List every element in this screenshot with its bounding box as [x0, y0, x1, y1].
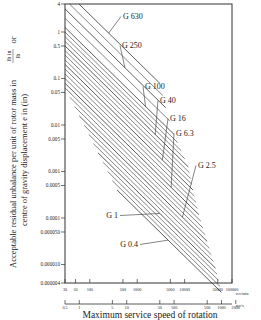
grade-line	[93, 144, 213, 262]
balance-quality-chart: G 630G 250G 100G 40G 16G 6.3G 2.5G 1G 0.…	[0, 0, 261, 320]
y-tick-label: 4	[57, 1, 60, 7]
grade-label: G 100	[145, 82, 165, 91]
x-tick-label: 5000	[166, 287, 174, 292]
x-axis-title: Maximum service speed of rotation	[82, 310, 217, 320]
y-axis-frac-num: lb in	[6, 51, 12, 62]
grade-line	[65, 74, 196, 202]
x-unit-primary: rev/min	[236, 291, 248, 296]
y-tick-label: 0.001	[48, 168, 60, 174]
grade-line	[103, 162, 217, 274]
grade-line	[65, 51, 189, 173]
x-tick-label: 50	[73, 287, 77, 292]
x-tick-label: 30	[63, 287, 67, 292]
grade-label: G 6.3	[176, 129, 194, 138]
grade-label: G 250	[122, 41, 142, 50]
x-unit-secondary: rev/s	[236, 303, 244, 308]
grade-line	[65, 18, 170, 121]
y-tick-label: 0.5	[54, 43, 61, 49]
y-tick-label: 0.0001	[46, 215, 61, 221]
grade-label: G 1	[106, 211, 118, 220]
y-axis-frac-den: lb	[15, 54, 21, 59]
x2-tick-label: 1000	[217, 305, 225, 310]
y-tick-label: 0.05	[51, 89, 60, 95]
x-axis-primary-ticks: 3050100500100050001000050000100000	[63, 279, 238, 292]
y-axis-ticks: 410.50.10.050.010.0050.0010.00050.00010.…	[41, 1, 65, 286]
grade-line	[65, 79, 197, 209]
x2-tick-label: 0.5	[62, 305, 67, 310]
y-tick-label: 1	[57, 29, 60, 35]
x-tick-label: 50000	[212, 287, 222, 292]
x-tick-label: 1000	[133, 287, 141, 292]
y-tick-label: 0.01	[51, 122, 60, 128]
grade-line	[75, 107, 206, 235]
y-tick-label: 0.000010	[41, 261, 61, 267]
x-tick-label: 500	[120, 287, 126, 292]
x-axis-secondary-ticks: 0.515105010050010002000	[62, 300, 240, 310]
grade-lines	[65, 4, 221, 292]
y-tick-label: 0.000004	[41, 280, 61, 286]
y-tick-label: 0.000050	[41, 229, 61, 235]
y-tick-label: 0.0005	[46, 182, 61, 188]
grade-label: G 2.5	[198, 161, 216, 170]
x2-tick-label: 1	[78, 305, 80, 310]
grade-line	[65, 64, 193, 190]
grade-line	[65, 69, 194, 196]
x-tick-label: 10000	[179, 287, 189, 292]
y-axis-title-a: Acceptable residual unbalance per unit o…	[8, 79, 18, 268]
grade-line	[65, 83, 199, 214]
y-tick-label: 0.005	[48, 136, 60, 142]
y-tick-label: 0.1	[54, 75, 61, 81]
grade-line	[65, 37, 181, 151]
x-tick-label: 100	[87, 287, 93, 292]
grade-label: G 0.4	[120, 240, 138, 249]
grade-label: G 16	[170, 114, 186, 123]
grade-line	[108, 171, 219, 280]
y-axis-title-or: or	[8, 36, 18, 43]
grade-label: G 630	[123, 12, 143, 21]
grade-label: G 40	[160, 96, 176, 105]
y-axis-title-line2: centre of gravity displacement e in (in)	[19, 94, 29, 226]
